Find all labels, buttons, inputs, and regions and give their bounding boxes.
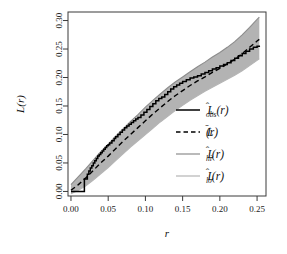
legend-label-mean: L̄(r) — [205, 125, 218, 140]
chart-figure: 0.000.050.100.150.200.25 0.000.050.100.1… — [0, 0, 287, 254]
y-tick-label: 0.15 — [54, 98, 64, 114]
x-tick-label: 0.25 — [249, 204, 265, 214]
x-tick-label: 0.15 — [175, 204, 191, 214]
y-tick-label: 0.05 — [54, 155, 64, 171]
y-tick-label: 0.30 — [54, 12, 64, 28]
y-tick-label: 0.25 — [54, 41, 64, 57]
x-tick-label: 0.00 — [63, 204, 79, 214]
x-tick-label: 0.10 — [138, 204, 154, 214]
y-tick-label: 0.00 — [54, 183, 64, 199]
x-tick-label: 0.05 — [100, 204, 116, 214]
x-axis-label: r — [165, 227, 170, 239]
x-tick-label: 0.20 — [212, 204, 228, 214]
chart-svg: 0.000.050.100.150.200.25 0.000.050.100.1… — [0, 0, 287, 254]
y-tick-label: 0.20 — [54, 69, 64, 85]
y-axis-label: L(r) — [14, 95, 27, 114]
y-tick-label: 0.10 — [54, 126, 64, 142]
